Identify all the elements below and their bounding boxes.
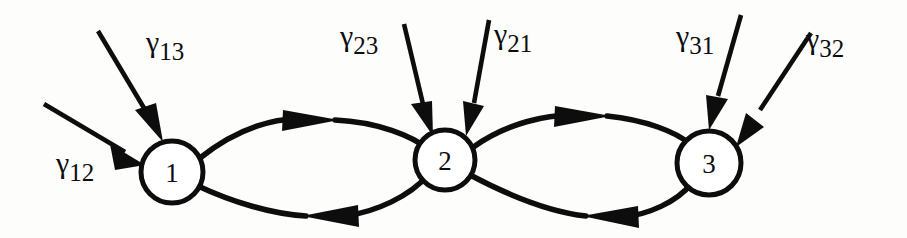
gamma-symbol: γ (56, 146, 69, 179)
gamma-symbol: γ (340, 19, 353, 52)
edge-1-to-2-top-path-tail (335, 120, 428, 149)
edge-2-to-1-bottom (198, 175, 428, 227)
arrow-gamma-21-head-icon (463, 101, 484, 136)
gamma-subscript: 21 (507, 30, 532, 57)
rate-label-gamma-23: γ23 (340, 21, 378, 58)
rate-label-gamma-32: γ32 (806, 24, 844, 61)
arrow-gamma-32 (736, 33, 811, 147)
edge-3-to-2-bottom (472, 176, 692, 228)
gamma-subscript: 13 (159, 38, 184, 65)
gamma-subscript: 32 (819, 35, 844, 62)
node-3-label: 3 (702, 149, 716, 179)
node-3[interactable]: 3 (677, 131, 741, 195)
gamma-symbol: γ (806, 22, 819, 55)
gamma-symbol: γ (676, 19, 689, 52)
arrow-gamma-12-shaft (44, 104, 125, 152)
gamma-symbol: γ (146, 25, 159, 58)
arrow-gamma-13-shaft (98, 31, 147, 113)
rate-label-gamma-13: γ13 (146, 27, 184, 64)
edge-2-to-1-arrowhead-icon (302, 205, 359, 227)
edge-3-to-2-bottom-path-tail (472, 176, 586, 216)
node-1[interactable]: 1 (141, 141, 203, 203)
edge-1-to-2-arrowhead-icon (282, 110, 339, 131)
arrow-gamma-23 (404, 24, 433, 136)
rate-label-gamma-12: γ12 (56, 148, 94, 185)
edge-2-to-3-top (472, 106, 690, 148)
gamma-subscript: 31 (689, 32, 714, 59)
arrow-gamma-21-shaft (474, 20, 489, 103)
arrow-gamma-13-head-icon (135, 103, 163, 142)
rate-label-gamma-21: γ21 (494, 19, 532, 56)
gamma-subscript: 23 (353, 32, 378, 59)
edge-3-to-2-arrowhead-icon (582, 206, 639, 228)
graph-canvas: 1 2 3 (0, 0, 907, 238)
edge-2-to-1-bottom-path-tail (198, 186, 306, 216)
gamma-symbol: γ (494, 17, 507, 50)
arrow-gamma-32-shaft (760, 33, 811, 110)
arrow-gamma-31-head-icon (706, 95, 728, 130)
edge-2-to-3-arrowhead-icon (554, 106, 611, 127)
edge-2-to-3-top-path-tail (607, 116, 690, 144)
node-2[interactable]: 2 (415, 130, 475, 190)
edge-1-to-2-top (200, 110, 428, 158)
arrow-gamma-21 (463, 20, 489, 136)
node-2-label: 2 (438, 146, 452, 176)
gamma-subscript: 12 (69, 159, 94, 186)
arrow-gamma-23-head-icon (411, 101, 433, 136)
arrow-gamma-31-shaft (718, 15, 741, 96)
state-transition-diagram: 1 2 3 γ12 γ13 γ23 γ21 γ31 γ32 (0, 0, 907, 238)
arrow-gamma-23-shaft (404, 24, 423, 104)
rate-label-gamma-31: γ31 (676, 21, 714, 58)
node-1-label: 1 (165, 158, 179, 188)
arrow-gamma-32-head-icon (736, 113, 764, 147)
